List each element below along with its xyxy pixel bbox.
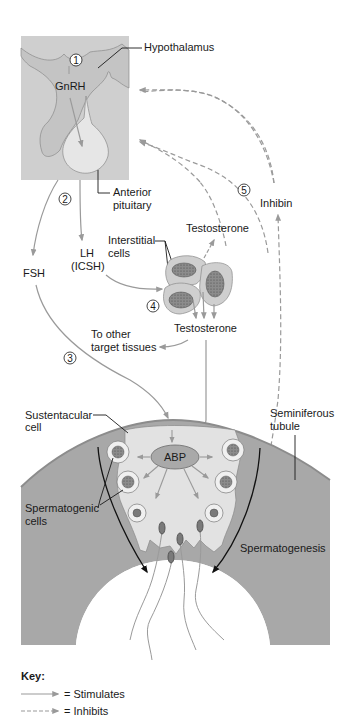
other-targets-label: To other — [91, 328, 131, 340]
step-1-number: 1 — [73, 55, 79, 66]
spermatogenic-label: Spermatogenic — [25, 502, 99, 514]
fsh-label: FSH — [23, 267, 45, 279]
testosterone-to-pituitary-arrow — [200, 182, 226, 246]
to-other-tissues-arrow — [160, 340, 188, 347]
lh-to-interstitial-arrow — [106, 275, 162, 289]
interstitial-cells-label-line2: cells — [108, 247, 131, 259]
testosterone-release-arrow — [204, 240, 214, 258]
anterior-pituitary-label-line2: pituitary — [113, 199, 152, 211]
sustentacular-label-line2: cell — [25, 421, 42, 433]
spermatogenic-label-line2: cells — [25, 515, 48, 527]
lh-label: LH — [80, 247, 94, 259]
upper-feedback-arrow — [140, 90, 274, 183]
step-5-number: 5 — [241, 185, 247, 196]
step-1-marker: 1 — [70, 54, 82, 66]
testosterone-feedback-arrow — [140, 142, 268, 253]
step-2-number: 2 — [62, 194, 68, 205]
interstitial-cells-cluster — [163, 256, 232, 314]
step-4-number: 4 — [150, 301, 156, 312]
legend: Key: = Stimulates = Inhibits — [21, 670, 125, 717]
interstitial-cells-label: Interstitial — [108, 234, 155, 246]
legend-title: Key: — [21, 670, 45, 682]
inhibin-label: Inhibin — [260, 197, 292, 209]
seminiferous-label-line2: tubule — [270, 420, 300, 432]
seminiferous-label: Seminiferous — [270, 407, 335, 419]
testosterone-lower-label: Testosterone — [174, 322, 237, 334]
hpg-axis-diagram: 1 GnRH Hypothalamus Anterior pituitary 5… — [0, 0, 346, 723]
spermatogenesis-label: Spermatogenesis — [240, 542, 326, 554]
inhibin-to-hypothalamus-arrow — [140, 90, 274, 183]
abp-ellipse: ABP — [151, 445, 199, 469]
sustentacular-label: Sustentacular — [25, 409, 93, 421]
other-targets-label-line2: target tissues — [91, 341, 157, 353]
step-5-marker: 5 — [238, 184, 250, 196]
icsh-label: (ICSH) — [71, 260, 105, 272]
testosterone-upper-label: Testosterone — [186, 222, 249, 234]
lh-release-arrow — [80, 180, 82, 240]
gnrh-label: GnRH — [55, 80, 86, 92]
fsh-release-arrow — [33, 180, 58, 255]
step-3-marker: 3 — [64, 352, 76, 364]
abp-label: ABP — [164, 451, 186, 463]
step-3-number: 3 — [67, 353, 73, 364]
legend-stimulates-label: = Stimulates — [64, 688, 125, 700]
hypothalamus-label: Hypothalamus — [144, 41, 215, 53]
testosterone-to-pituitary-arrow-end — [140, 140, 200, 182]
interstitial-leader-a — [155, 241, 172, 262]
step-4-marker: 4 — [147, 300, 159, 312]
step-2-marker: 2 — [59, 193, 71, 205]
legend-inhibits-label: = Inhibits — [64, 705, 109, 717]
anterior-pituitary-label: Anterior — [113, 186, 152, 198]
